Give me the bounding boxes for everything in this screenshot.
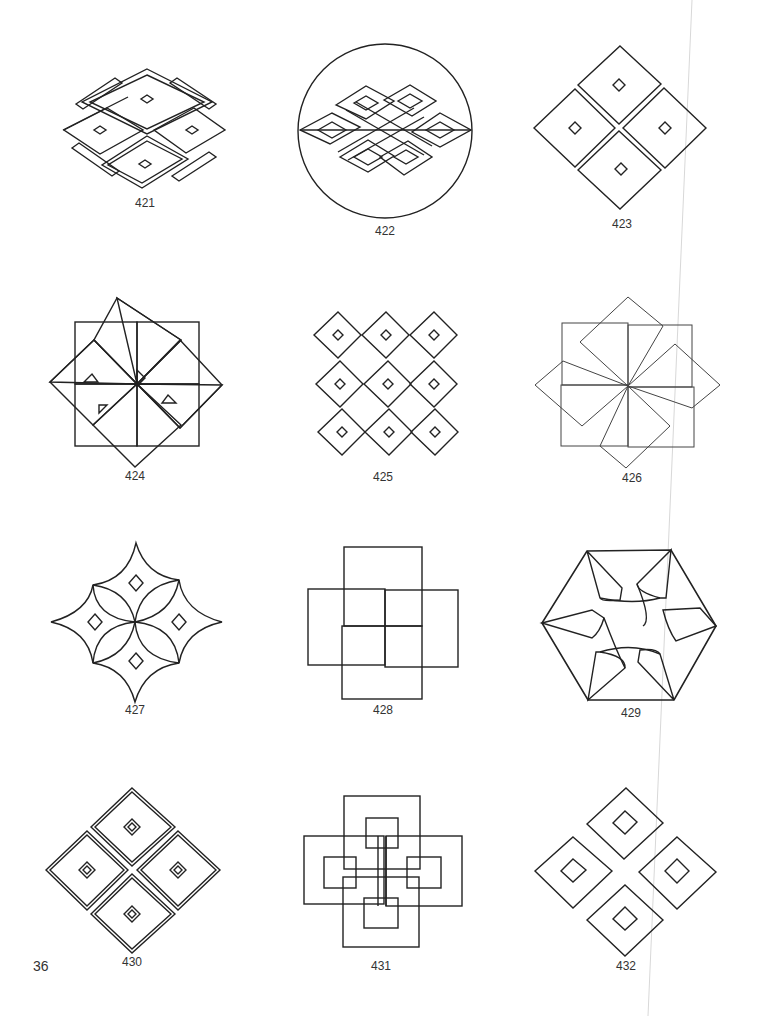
page-number: 36	[33, 958, 49, 974]
motif-432-drawing	[0, 0, 761, 1016]
figure-caption: 432	[616, 959, 636, 973]
